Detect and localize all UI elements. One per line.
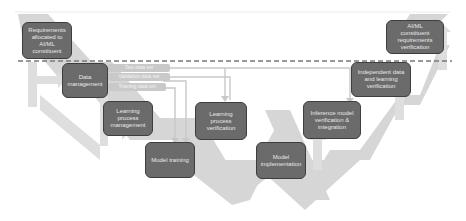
independent-data-verification-box: Independent data and learning verificati… [351,62,411,97]
test-data-set-label: Test data set [108,64,170,72]
learning-process-verification-box: Learning process verification [195,102,247,140]
model-training-box: Model training [145,142,195,178]
model-implementation-box: Model implementation [256,142,306,179]
w-shaped-process-diagram: Test data set Validation data set Traini… [0,0,466,221]
learning-process-management-box: Learning process management [103,101,153,136]
data-management-box: Data management [62,63,108,98]
constituent-requirements-verification-box: AI/ML constituent requirements verificat… [386,20,444,54]
training-data-set-label: Training data set [108,83,166,91]
requirements-allocated-box: Requirements allocated to AI/ML constitu… [22,22,72,59]
validation-data-set-label: Validation data set [108,73,170,81]
inference-model-verification-box: Inference model verification & integrati… [303,101,361,139]
